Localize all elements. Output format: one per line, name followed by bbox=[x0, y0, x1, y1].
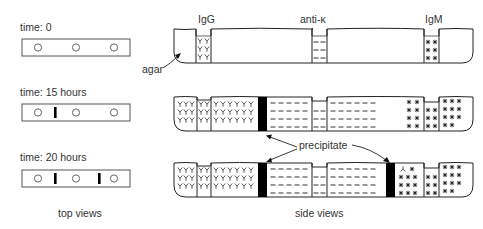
precipitate-arrows bbox=[266, 135, 390, 164]
precipitate-band-igg-anti-kappa bbox=[258, 97, 267, 131]
agar-arrow bbox=[163, 53, 181, 68]
igm-molecules bbox=[426, 40, 437, 60]
anti-kappa-molecules bbox=[314, 42, 326, 58]
precipitate-band bbox=[54, 107, 57, 118]
top-view-time-0 bbox=[22, 39, 130, 56]
anti-kappa-diffused-15h bbox=[271, 103, 376, 127]
top-view-time-20h bbox=[22, 170, 130, 187]
precipitate-band bbox=[54, 173, 57, 184]
diagram-canvas bbox=[0, 0, 483, 229]
anti-kappa-diffused-20h bbox=[271, 169, 376, 193]
igm-diffused-15h bbox=[407, 99, 461, 128]
top-view-time-15h bbox=[22, 104, 130, 121]
precipitate-band bbox=[98, 173, 101, 184]
igg-diffused-15h bbox=[178, 102, 253, 123]
igm-diffused-20h bbox=[399, 165, 461, 195]
igg-molecules bbox=[198, 39, 209, 60]
precipitate-band-igg-anti-kappa bbox=[258, 163, 267, 197]
precipitate-band-anti-kappa-igm bbox=[386, 163, 395, 197]
igg-diffused-20h bbox=[178, 168, 253, 189]
